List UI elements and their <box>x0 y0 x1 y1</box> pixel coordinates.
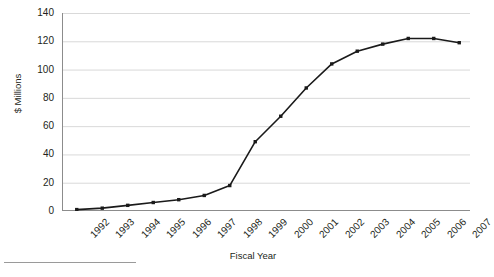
x-axis-tick-label: 2006 <box>445 217 468 240</box>
x-axis-tick-label: 2005 <box>420 217 443 240</box>
x-axis-tick-label: 1994 <box>139 217 162 240</box>
footnote-rule <box>4 262 136 263</box>
x-axis-tick-label: 1998 <box>241 217 264 240</box>
x-axis-title-text: Fiscal Year <box>230 250 276 261</box>
x-axis-tick-label: 1992 <box>88 217 111 240</box>
x-axis-tick-label: 1993 <box>114 217 137 240</box>
x-axis-tick-label: 2003 <box>369 217 392 240</box>
x-axis-tick-label: 1996 <box>190 217 213 240</box>
x-axis-tick-label: 1997 <box>216 217 239 240</box>
x-axis-tick-label: 2007 <box>471 217 494 240</box>
x-axis-tick-label: 1999 <box>267 217 290 240</box>
x-axis-title: Fiscal Year <box>0 250 482 261</box>
x-axis-tick-label: 2004 <box>394 217 417 240</box>
x-axis-tick-label: 2000 <box>292 217 315 240</box>
x-axis-tick-label: 2002 <box>343 217 366 240</box>
x-axis-tick-label: 2001 <box>318 217 341 240</box>
x-axis-tick-label: 1995 <box>165 217 188 240</box>
